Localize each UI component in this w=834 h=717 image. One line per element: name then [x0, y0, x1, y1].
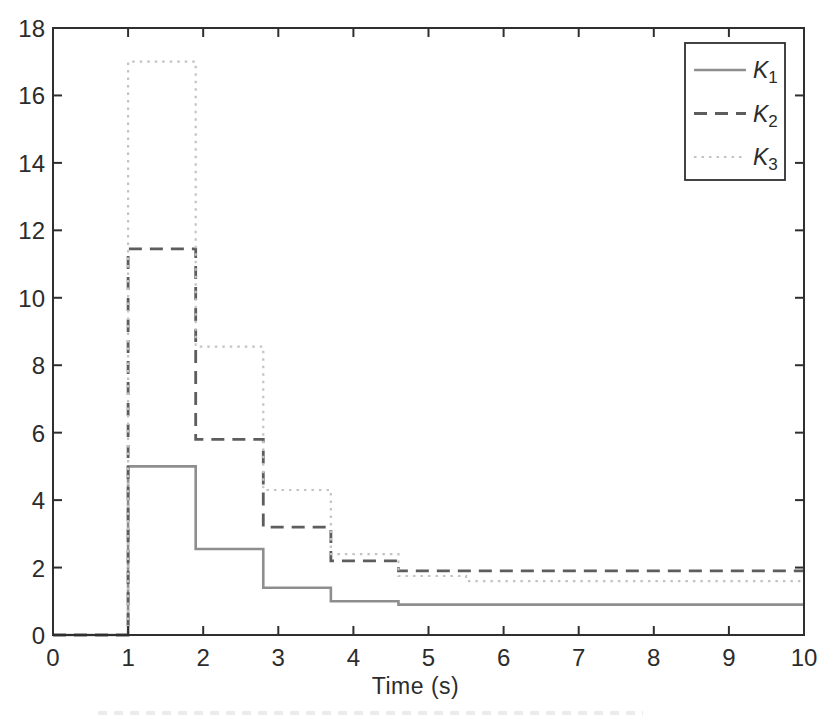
y-tick-label: 2	[32, 555, 45, 582]
y-tick-label: 10	[18, 285, 45, 312]
y-tick-label: 6	[32, 420, 45, 447]
y-tick-label: 0	[32, 622, 45, 649]
y-tick-label: 4	[32, 487, 45, 514]
step-response-figure: 012345678910024681012141618K1K2K3 Time (…	[0, 0, 834, 717]
chart-canvas: 012345678910024681012141618K1K2K3	[0, 0, 834, 717]
x-axis-title: Time (s)	[40, 673, 791, 700]
x-tick-label: 1	[121, 644, 134, 671]
x-tick-label: 7	[572, 644, 585, 671]
cropped-caption-artifact	[98, 711, 643, 715]
y-tick-label: 8	[32, 352, 45, 379]
x-tick-label: 4	[347, 644, 360, 671]
x-tick-label: 9	[722, 644, 735, 671]
x-tick-label: 8	[647, 644, 660, 671]
series-line-K1	[53, 466, 804, 635]
y-tick-label: 12	[18, 217, 45, 244]
y-tick-label: 18	[18, 15, 45, 42]
x-tick-label: 0	[46, 644, 59, 671]
x-tick-label: 2	[197, 644, 210, 671]
x-tick-label: 6	[497, 644, 510, 671]
x-tick-label: 10	[791, 644, 818, 671]
y-tick-label: 16	[18, 82, 45, 109]
x-tick-label: 3	[272, 644, 285, 671]
y-tick-label: 14	[18, 150, 45, 177]
x-tick-label: 5	[422, 644, 435, 671]
